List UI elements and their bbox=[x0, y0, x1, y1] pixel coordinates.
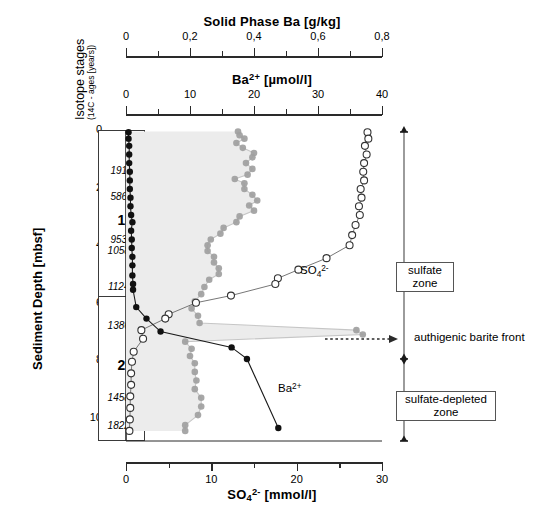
depth-tick-label: 10 bbox=[58, 411, 102, 423]
sulfate-depleted-zone-box: sulfate-depleted zone bbox=[396, 391, 496, 421]
isotope-ages-subheader: (14C - ages [years]) bbox=[86, 45, 96, 120]
sulfate-axis-title: SO42- [mmol/l] bbox=[152, 487, 392, 503]
barite-front-arrow bbox=[325, 331, 403, 347]
barite-front-label: authigenic barite front bbox=[414, 331, 525, 343]
sulfate-axis-tick-label: 20 bbox=[275, 473, 319, 485]
dissolved-ba-axis-title: Ba2+ [µmol/l] bbox=[152, 72, 392, 87]
sulfate-zone-line1: sulfate bbox=[408, 264, 442, 277]
sulfate-axis-tick-mark bbox=[297, 462, 298, 471]
sulfate-series-label: SO42- bbox=[300, 264, 329, 279]
barium-series-label: Ba2+ bbox=[278, 382, 302, 394]
figure-root: Sediment Depth [mbsf] Isotope stages (14… bbox=[0, 0, 539, 518]
sulfate-axis-tick-mark bbox=[382, 462, 383, 471]
solid-phase-ba-axis-tick-label: 0,4 bbox=[232, 30, 276, 42]
solid-phase-ba-axis-tick-mark bbox=[318, 48, 319, 57]
solid-phase-ba-axis-title: Solid Phase Ba [g/kg] bbox=[152, 14, 392, 29]
dissolved-ba-axis-tick-mark bbox=[382, 106, 383, 115]
solid-phase-ba-axis-tick-label: 0,6 bbox=[296, 30, 340, 42]
dissolved-ba-axis-minor-tick-mark bbox=[158, 109, 159, 115]
sulfate-axis-tick-mark bbox=[126, 462, 127, 471]
solid-phase-ba-axis-minor-tick-mark bbox=[222, 51, 223, 57]
dissolved-ba-axis-minor-tick-mark bbox=[286, 109, 287, 115]
depth-tick-label: 2 bbox=[58, 181, 102, 193]
sulfate-axis-minor-tick-mark bbox=[339, 462, 340, 468]
dissolved-ba-axis-tick-label: 10 bbox=[168, 88, 212, 100]
depth-tick-label: 4 bbox=[58, 238, 102, 250]
solid-phase-ba-axis-minor-tick-mark bbox=[286, 51, 287, 57]
isotope-stages-header: Isotope stages bbox=[73, 39, 87, 120]
depth-tick-label: 6 bbox=[58, 296, 102, 308]
dissolved-ba-axis-tick-label: 0 bbox=[104, 88, 148, 100]
solid-phase-ba-axis-tick-mark bbox=[126, 48, 127, 57]
dissolved-ba-axis-minor-tick-mark bbox=[222, 109, 223, 115]
depth-axis-label: Sediment Depth [mbsf] bbox=[30, 228, 45, 370]
dissolved-ba-axis-tick-label: 20 bbox=[232, 88, 276, 100]
solid-phase-ba-axis-tick-mark bbox=[382, 48, 383, 57]
dissolved-ba-axis-tick-mark bbox=[318, 106, 319, 115]
solid-phase-ba-axis-tick-label: 0,2 bbox=[168, 30, 212, 42]
sulfate-depleted-zone-line1: sulfate-depleted bbox=[405, 393, 487, 406]
dissolved-ba-axis-tick-mark bbox=[126, 106, 127, 115]
solid-phase-ba-axis-tick-label: 0,8 bbox=[360, 30, 404, 42]
solid-phase-ba-axis-minor-tick-mark bbox=[350, 51, 351, 57]
depth-tick-label: 0 bbox=[58, 123, 102, 135]
sulfate-depleted-zone-line2: zone bbox=[434, 406, 459, 419]
depth-tick-label: 8 bbox=[58, 353, 102, 365]
dissolved-ba-axis-tick-mark bbox=[190, 106, 191, 115]
sulfate-axis-minor-tick-mark bbox=[169, 462, 170, 468]
sulfate-axis-tick-mark bbox=[211, 462, 212, 471]
sulfate-axis-tick-label: 30 bbox=[360, 473, 404, 485]
dissolved-ba-axis-tick-label: 40 bbox=[360, 88, 404, 100]
sulfate-axis-tick-label: 10 bbox=[189, 473, 233, 485]
sulfate-axis-minor-tick-mark bbox=[254, 462, 255, 468]
dissolved-ba-axis-tick-label: 30 bbox=[296, 88, 340, 100]
sulfate-zone-box: sulfate zone bbox=[396, 262, 454, 292]
solid-phase-ba-axis-tick-mark bbox=[190, 48, 191, 57]
dissolved-ba-axis-minor-tick-mark bbox=[350, 109, 351, 115]
dissolved-ba-axis-tick-mark bbox=[254, 106, 255, 115]
solid-phase-ba-axis-minor-tick-mark bbox=[158, 51, 159, 57]
solid-phase-ba-axis-tick-label: 0 bbox=[104, 30, 148, 42]
sulfate-zone-line2: zone bbox=[413, 277, 438, 290]
sulfate-axis-tick-label: 0 bbox=[104, 473, 148, 485]
solid-phase-ba-axis-tick-mark bbox=[254, 48, 255, 57]
main-plot-canvas bbox=[110, 118, 490, 478]
